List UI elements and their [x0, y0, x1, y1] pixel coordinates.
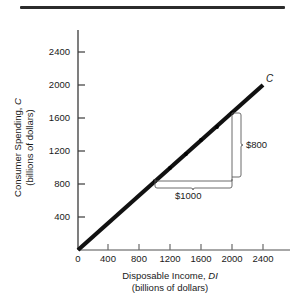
x-axis-title-text: Disposable Income, DI	[122, 270, 218, 281]
y-tick-label-1200: 1200	[36, 145, 70, 156]
x-tick-label-2000: 2000	[215, 253, 249, 264]
y-axis-title-line2: (billions of dollars)	[23, 68, 35, 228]
x-axis-title: Disposable Income, DI (billions of dolla…	[78, 270, 262, 293]
axis-symbol: C	[12, 98, 23, 105]
annotation-label-1000: $1000	[175, 190, 201, 201]
y-tick-label-1600: 1600	[36, 112, 70, 123]
x-axis-units-text: (billions of dollars)	[132, 282, 209, 293]
x-axis-title-line1: Disposable Income, DI	[78, 270, 262, 282]
y-tick-label-400: 400	[36, 211, 70, 222]
figure-container: 2400 2000 1600 1200 800 400 0 400 800 12…	[0, 0, 297, 307]
axis-symbol: DI	[208, 270, 218, 281]
x-axis-title-line2: (billions of dollars)	[78, 282, 262, 294]
y-axis-units-text: (billions of dollars)	[23, 109, 34, 186]
y-axis-title-text: Consumer Spending, C	[12, 98, 23, 197]
y-axis-title-line1: Consumer Spending, C	[12, 68, 24, 228]
data-point-marker	[184, 152, 188, 156]
x-tick-label-1600: 1600	[184, 253, 218, 264]
y-tick-label-2000: 2000	[36, 79, 70, 90]
y-tick-label-2400: 2400	[36, 46, 70, 57]
series-c-group	[78, 85, 263, 250]
data-point-marker	[199, 138, 203, 142]
bracket-800	[232, 113, 243, 177]
x-tick-label-1200: 1200	[153, 253, 187, 264]
x-tick-marks	[108, 244, 263, 250]
series-label-c: C	[266, 73, 273, 84]
chart-plot-area: 2400 2000 1600 1200 800 400 0 400 800 12…	[0, 0, 297, 307]
x-tick-label-2400: 2400	[246, 253, 280, 264]
y-tick-label-800: 800	[36, 178, 70, 189]
x-tick-label-800: 800	[122, 253, 156, 264]
annotation-label-800: $800	[246, 139, 267, 150]
data-point-marker	[168, 166, 172, 170]
x-tick-label-0: 0	[61, 253, 95, 264]
y-tick-marks	[78, 52, 85, 217]
y-axis-title: Consumer Spending, C (billions of dollar…	[12, 68, 35, 228]
bracket-800-path	[232, 113, 243, 177]
data-point-marker	[215, 125, 219, 129]
x-tick-label-400: 400	[91, 253, 125, 264]
